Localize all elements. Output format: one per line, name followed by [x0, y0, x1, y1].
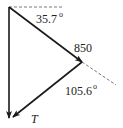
force-850-label: 850 — [74, 41, 92, 55]
force-t-label: T — [31, 112, 39, 126]
force-triangle-diagram: 35.7o 850 105.6o T — [0, 0, 123, 128]
extension-reference-line — [82, 62, 116, 85]
angle-right-label: 105.6o — [65, 82, 97, 98]
angle-top-label: 35.7o — [36, 10, 63, 26]
